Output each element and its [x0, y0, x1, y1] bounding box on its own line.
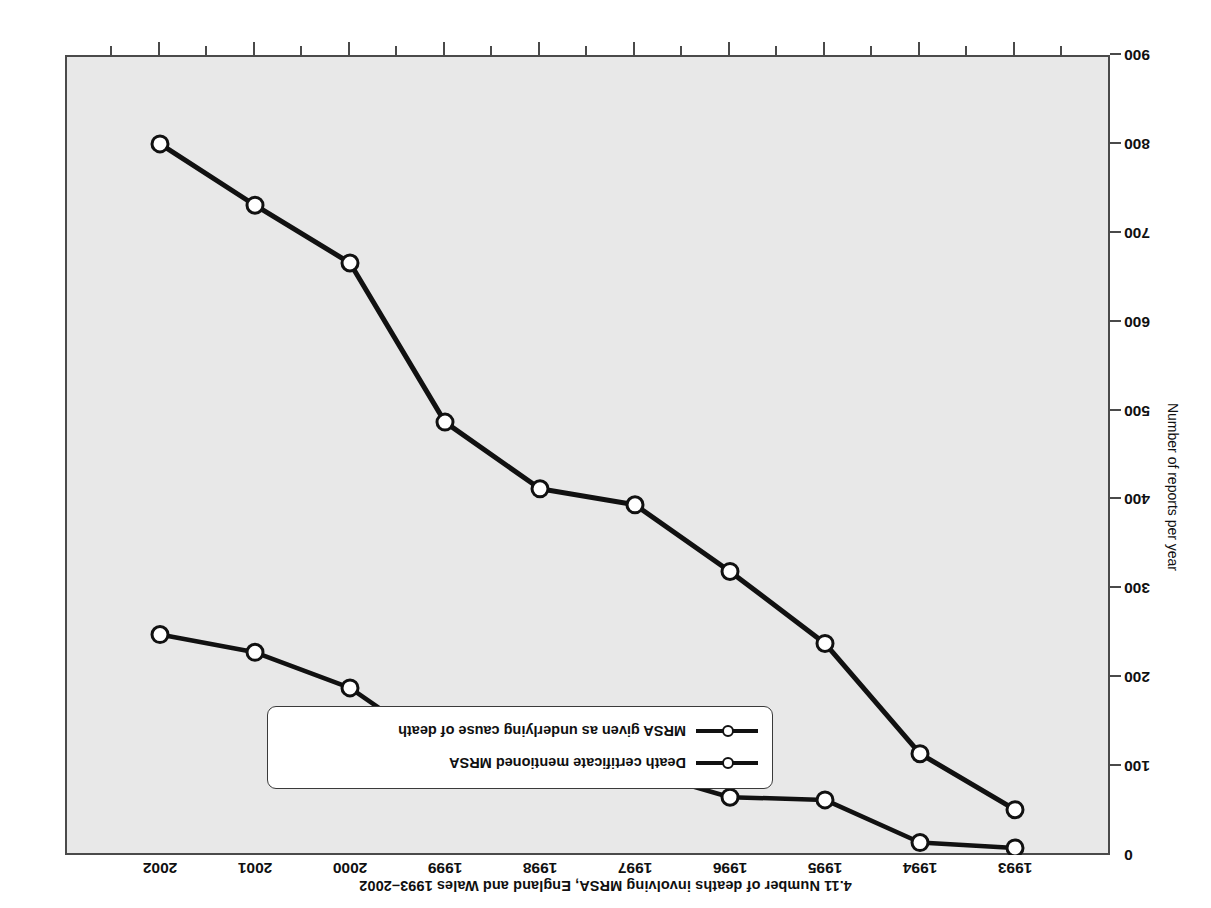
- x-tick-mark: [728, 42, 730, 55]
- y-tick-mark: [1110, 53, 1121, 55]
- x-tick-mark: [918, 42, 920, 55]
- x-tick-mark: [158, 42, 160, 55]
- y-tick-label: 100: [1124, 759, 1184, 775]
- data-point-marker: [342, 680, 358, 696]
- x-tick-label: 1998: [505, 861, 575, 877]
- y-tick-mark: [1110, 764, 1121, 766]
- data-point-marker: [532, 481, 548, 497]
- x-tick-label: 1997: [600, 861, 670, 877]
- data-point-marker: [437, 414, 453, 430]
- y-tick-label: 600: [1124, 314, 1184, 330]
- x-tick-mark: [443, 42, 445, 55]
- y-tick-label: 0: [1124, 848, 1184, 864]
- y-tick-mark: [1110, 231, 1121, 233]
- y-tick-mark: [1110, 497, 1121, 499]
- x-tick-mark: [1013, 42, 1015, 55]
- y-axis-title: Number of reports per year: [1165, 357, 1181, 617]
- data-point-marker: [817, 792, 833, 808]
- data-point-marker: [722, 789, 738, 805]
- x-tick-mark-minor: [586, 46, 588, 55]
- y-tick-label: 800: [1124, 136, 1184, 152]
- legend-label: Death certificate mentioned MRSA: [449, 755, 686, 771]
- x-tick-label: 1996: [695, 861, 765, 877]
- y-tick-label: 700: [1124, 225, 1184, 241]
- x-tick-label: 1999: [410, 861, 480, 877]
- data-point-marker: [912, 746, 928, 762]
- x-tick-mark-minor: [871, 46, 873, 55]
- chart-figure: 4.11 Number of deaths involving MRSA, En…: [0, 0, 1211, 908]
- x-tick-mark-minor: [396, 46, 398, 55]
- data-point-marker: [1007, 840, 1023, 855]
- x-tick-mark-minor: [491, 46, 493, 55]
- y-tick-mark: [1110, 409, 1121, 411]
- x-tick-label: 2001: [220, 861, 290, 877]
- data-point-marker: [912, 835, 928, 851]
- chart-title: 4.11 Number of deaths involving MRSA, En…: [0, 878, 1211, 894]
- x-tick-mark-minor: [301, 46, 303, 55]
- y-tick-label: 200: [1124, 670, 1184, 686]
- data-point-marker: [722, 563, 738, 579]
- data-point-marker: [1007, 802, 1023, 818]
- legend-label: MRSA given as underlying cause of death: [398, 723, 686, 739]
- x-tick-mark-minor: [111, 46, 113, 55]
- data-point-marker: [342, 255, 358, 271]
- x-tick-mark-minor: [776, 46, 778, 55]
- legend-item: MRSA given as underlying cause of death: [398, 718, 758, 744]
- legend-marker-icon: [696, 724, 758, 738]
- data-point-marker: [817, 635, 833, 651]
- data-point-marker: [247, 644, 263, 660]
- x-tick-mark-minor: [966, 46, 968, 55]
- x-tick-mark: [633, 42, 635, 55]
- y-tick-label: 400: [1124, 492, 1184, 508]
- y-tick-mark: [1110, 142, 1121, 144]
- x-tick-label: 2002: [125, 861, 195, 877]
- x-tick-mark: [253, 42, 255, 55]
- legend-item: Death certificate mentioned MRSA: [449, 750, 758, 776]
- y-tick-label: 300: [1124, 581, 1184, 597]
- x-tick-mark: [348, 42, 350, 55]
- x-tick-mark-minor: [681, 46, 683, 55]
- data-point-marker: [247, 197, 263, 213]
- chart-legend: Death certificate mentioned MRSAMRSA giv…: [267, 706, 773, 789]
- data-point-marker: [152, 136, 168, 152]
- data-point-marker: [152, 627, 168, 643]
- y-tick-mark: [1110, 675, 1121, 677]
- x-tick-mark-minor: [1061, 46, 1063, 55]
- y-tick-mark: [1110, 586, 1121, 588]
- x-tick-mark: [538, 42, 540, 55]
- x-tick-label: 1995: [790, 861, 860, 877]
- x-tick-label: 2000: [315, 861, 385, 877]
- y-tick-mark: [1110, 320, 1121, 322]
- y-tick-label: 900: [1124, 48, 1184, 64]
- x-tick-label: 1994: [885, 861, 955, 877]
- x-tick-mark: [823, 42, 825, 55]
- y-tick-label: 500: [1124, 403, 1184, 419]
- data-point-marker: [627, 497, 643, 513]
- x-tick-mark-minor: [206, 46, 208, 55]
- x-tick-label: 1993: [980, 861, 1050, 877]
- legend-marker-icon: [696, 756, 758, 770]
